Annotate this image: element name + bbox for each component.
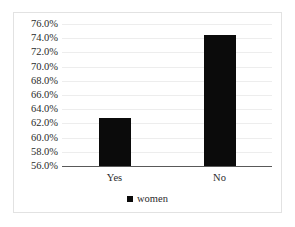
gridline — [62, 152, 272, 153]
bar-chart-figure: 76.0%74.0%72.0%70.0%68.0%66.0%64.0%62.0%… — [0, 0, 295, 227]
bar-no[interactable] — [204, 35, 236, 166]
plot-area — [62, 24, 272, 166]
gridline — [62, 24, 272, 25]
y-axis-tick-label: 58.0% — [6, 147, 58, 158]
x-axis-line — [62, 166, 272, 167]
y-axis-tick-label: 66.0% — [6, 90, 58, 101]
gridline — [62, 67, 272, 68]
x-axis-tick-label-yes: Yes — [75, 172, 155, 184]
y-axis-tick-label: 72.0% — [6, 47, 58, 58]
y-axis-tick-label: 64.0% — [6, 104, 58, 115]
x-axis-tick-label-no: No — [180, 172, 260, 184]
bar-yes[interactable] — [99, 118, 131, 166]
y-axis-tick-label: 60.0% — [6, 133, 58, 144]
y-axis-tick-label: 74.0% — [6, 33, 58, 44]
gridline — [62, 109, 272, 110]
y-axis-tick-label: 62.0% — [6, 118, 58, 129]
gridline — [62, 38, 272, 39]
gridline — [62, 52, 272, 53]
gridline — [62, 138, 272, 139]
gridline — [62, 95, 272, 96]
gridline — [62, 123, 272, 124]
y-axis-tick-label: 68.0% — [6, 76, 58, 87]
legend-label-women: women — [137, 193, 168, 204]
y-axis-tick-label: 70.0% — [6, 62, 58, 73]
y-axis-tick-label: 76.0% — [6, 19, 58, 30]
chart-legend: women — [0, 193, 295, 204]
legend-swatch-women — [127, 196, 133, 202]
y-axis-tick-label: 56.0% — [6, 161, 58, 172]
gridline — [62, 81, 272, 82]
